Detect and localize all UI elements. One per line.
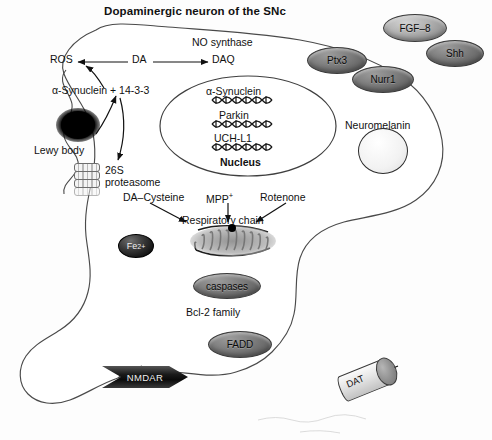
label-proteasome: proteasome (105, 177, 160, 188)
label-no-synthase: NO synthase (192, 37, 253, 48)
fe-ion-superscript: 2+ (137, 243, 145, 250)
label-da-cysteine: DA–Cysteine (123, 192, 184, 203)
label-bcl2-family: Bcl-2 family (186, 307, 240, 318)
label-rotenone: Rotenone (260, 192, 306, 203)
badge-fadd[interactable]: FADD (208, 331, 272, 358)
lewy-body-icon (56, 108, 100, 142)
badge-shh[interactable]: Shh (426, 40, 484, 67)
nucleus-gene-uch-l1: UCH-L1 (214, 133, 252, 144)
badge-caspases[interactable]: caspases (193, 273, 261, 299)
mitochondrion-dot-icon (228, 224, 236, 232)
label-alpha-synuclein-14-3-3: α-Synuclein + 14-3-3 (52, 85, 149, 96)
label-mpp-text: MPP (206, 193, 229, 205)
fe2-ion-icon: Fe2+ (118, 234, 154, 258)
neuromelanin-granule-icon (358, 128, 408, 174)
figure-dopaminergic-neuron: Dopaminergic neuron of the SNc NO syntha… (0, 0, 492, 440)
label-da: DA (132, 54, 147, 65)
label-ros: ROS (50, 54, 73, 65)
figure-title: Dopaminergic neuron of the SNc (104, 5, 286, 17)
label-daq: DAQ (212, 54, 235, 65)
label-mpp-superscript: + (229, 191, 233, 200)
badge-nurr1[interactable]: Nurr1 (352, 66, 414, 93)
label-26s: 26S (105, 165, 124, 176)
nucleus-gene-parkin: Parkin (219, 110, 249, 121)
badge-ptx3[interactable]: Ptx3 (307, 47, 367, 74)
nucleus-label: Nucleus (220, 157, 261, 168)
label-lewy-body: Lewy body (34, 145, 84, 156)
label-mpp: MPP+ (206, 192, 233, 205)
scan-artifact (258, 415, 366, 433)
fe-ion-text: Fe (127, 241, 138, 251)
badge-fgf8[interactable]: FGF–8 (383, 14, 447, 42)
nucleus-gene-alpha-synuclein: α-Synuclein (206, 86, 261, 97)
label-respiratory-chain: Respiratory chain (182, 215, 264, 226)
proteasome-icon (74, 163, 100, 197)
